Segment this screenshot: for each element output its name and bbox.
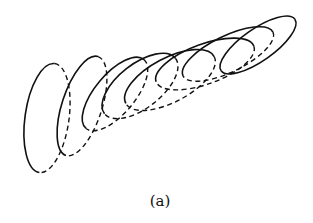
- ellipse-back-arc: [221, 19, 304, 84]
- ellipse-section-7: [175, 16, 281, 92]
- ellipse-section-6: [149, 27, 260, 100]
- ellipse-front-arc: [47, 50, 98, 155]
- ellipse-sequence-diagram: [0, 0, 313, 223]
- ellipse-section-8: [212, 6, 304, 84]
- ellipse-section-3: [71, 47, 159, 142]
- figure-caption: (a): [0, 192, 313, 210]
- ellipse-section-1: [18, 60, 77, 175]
- ellipse-section-2: [47, 50, 117, 161]
- ellipse-front-arc: [175, 16, 273, 76]
- ellipse-front-arc: [116, 37, 215, 103]
- ellipse-back-arc: [183, 32, 281, 92]
- ellipse-back-arc: [66, 57, 117, 162]
- ellipse-front-arc: [18, 60, 55, 172]
- ellipse-front-arc: [149, 27, 254, 81]
